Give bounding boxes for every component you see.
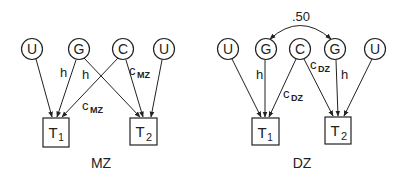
path-label-c-dz: c DZ bbox=[283, 86, 303, 103]
latent-node-u: U bbox=[154, 39, 175, 60]
observed-node-t2: T 2 bbox=[325, 117, 351, 144]
svg-text:T: T bbox=[135, 123, 144, 140]
svg-text:C: C bbox=[295, 41, 305, 57]
observed-node-t1: T 1 bbox=[43, 118, 69, 147]
svg-text:T: T bbox=[257, 124, 266, 141]
edge-u2-t2 bbox=[151, 60, 162, 117]
mz-caption: MZ bbox=[91, 155, 112, 171]
path-label-c-mz: c MZ bbox=[82, 98, 103, 115]
dz-caption: DZ bbox=[293, 155, 312, 171]
svg-text:T: T bbox=[48, 124, 57, 141]
svg-text:G: G bbox=[330, 41, 341, 57]
correlation-label: .50 bbox=[292, 9, 310, 24]
latent-node-u: U bbox=[22, 39, 43, 60]
observed-node-t1: T 1 bbox=[252, 118, 279, 145]
mz-diagram: U G C U T 1 T 2 h h c MZ bbox=[22, 39, 175, 172]
svg-text:2: 2 bbox=[146, 131, 152, 143]
svg-text:c: c bbox=[283, 86, 290, 101]
svg-text:2: 2 bbox=[341, 130, 347, 142]
edge-g2-t2 bbox=[336, 60, 338, 116]
svg-text:c: c bbox=[129, 63, 136, 78]
svg-text:c: c bbox=[82, 98, 89, 113]
svg-text:G: G bbox=[74, 41, 85, 57]
svg-text:MZ: MZ bbox=[137, 70, 150, 80]
latent-node-u: U bbox=[218, 39, 239, 60]
path-label-h: h bbox=[256, 67, 263, 82]
path-label-h: h bbox=[341, 67, 348, 82]
path-label-h: h bbox=[60, 65, 67, 80]
edge-u1-t1 bbox=[36, 59, 52, 117]
svg-text:U: U bbox=[27, 41, 37, 57]
correlation-arc bbox=[270, 26, 331, 40]
latent-node-g: G bbox=[69, 39, 90, 60]
latent-node-u: U bbox=[365, 39, 386, 60]
latent-node-c: C bbox=[113, 39, 134, 60]
svg-text:T: T bbox=[330, 122, 339, 139]
svg-text:DZ: DZ bbox=[318, 64, 330, 74]
svg-text:1: 1 bbox=[58, 132, 64, 143]
path-label-h: h bbox=[82, 67, 89, 82]
svg-text:c: c bbox=[310, 57, 317, 72]
svg-text:U: U bbox=[370, 41, 380, 57]
observed-node-t2: T 2 bbox=[130, 118, 157, 145]
svg-text:C: C bbox=[118, 41, 128, 57]
path-label-c-dz: c DZ bbox=[310, 57, 330, 74]
svg-text:U: U bbox=[223, 41, 233, 57]
latent-node-c: C bbox=[290, 39, 311, 60]
svg-text:MZ: MZ bbox=[90, 105, 103, 115]
latent-node-g: G bbox=[256, 39, 277, 60]
twin-path-diagrams: U G C U T 1 T 2 h h c MZ bbox=[0, 0, 402, 182]
svg-text:1: 1 bbox=[267, 132, 273, 143]
dz-diagram: .50 U G C G U T bbox=[218, 9, 386, 171]
svg-text:G: G bbox=[261, 41, 272, 57]
svg-text:U: U bbox=[159, 41, 169, 57]
latent-node-g: G bbox=[325, 39, 346, 60]
svg-text:DZ: DZ bbox=[291, 93, 303, 103]
path-label-c-mz: c MZ bbox=[129, 63, 150, 80]
